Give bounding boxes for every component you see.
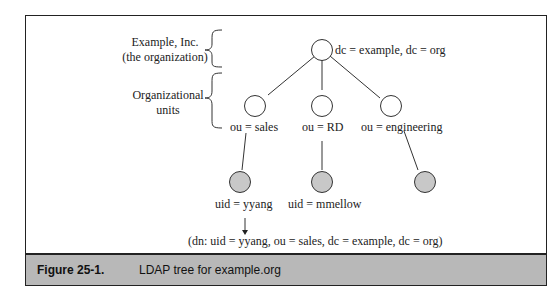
- sales-node: [245, 96, 266, 117]
- engineering-label: ou = engineering: [361, 120, 442, 134]
- yyang-label: uid = yyang: [215, 197, 272, 211]
- org-label-line1: Example, Inc.: [132, 35, 199, 49]
- figure-caption: Figure 25-1. LDAP tree for example.org: [25, 253, 547, 286]
- figure-caption-text: LDAP tree for example.org: [139, 263, 281, 277]
- ou-label-line1: Organizational: [132, 88, 204, 102]
- mmellow-label: uid = mmellow: [288, 197, 362, 211]
- sales-label: ou = sales: [230, 120, 278, 134]
- rd-label: ou = RD: [302, 120, 344, 134]
- dn-label: (dn: uid = yyang, ou = sales, dc = examp…: [188, 234, 442, 248]
- engineering-node: [381, 96, 402, 117]
- engineering-leaf-node: [415, 172, 436, 193]
- org-label-line2: (the organization): [122, 50, 207, 64]
- rd-node: [312, 96, 333, 117]
- yyang-node: [230, 172, 251, 193]
- ou-brace: [205, 73, 222, 128]
- root-node: [312, 40, 333, 61]
- root-label: dc = example, dc = org: [335, 43, 446, 57]
- ou-label-line2: units: [156, 103, 180, 117]
- mmellow-node: [312, 172, 333, 193]
- figure-number: Figure 25-1.: [37, 263, 104, 277]
